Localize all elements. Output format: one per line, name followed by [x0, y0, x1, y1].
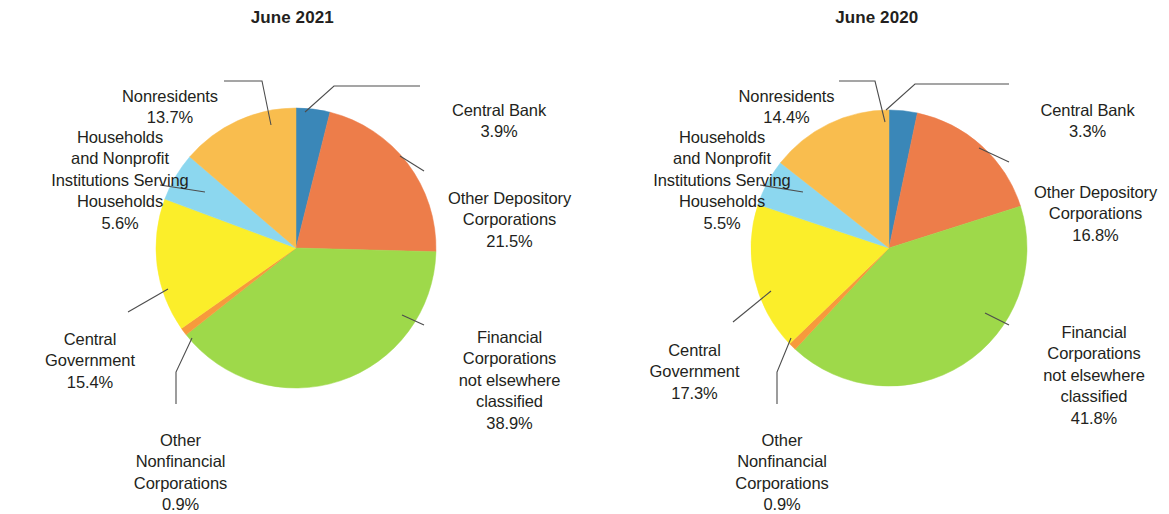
pie-label-value: 15.4%	[20, 372, 160, 394]
pie-label-central-bank: Central Bank 3.3%	[1013, 78, 1163, 164]
pie-label-name: Households and Nonprofit Institutions Se…	[51, 128, 188, 211]
pie-label-name: Nonresidents	[122, 87, 218, 105]
pie-label-value: 41.8%	[1022, 408, 1167, 430]
pie-label-name: Central Bank	[452, 101, 546, 119]
pie-label-name: Central Government	[650, 341, 740, 381]
pie-label-value: 3.9%	[424, 121, 574, 143]
pie-label-value: 21.5%	[437, 231, 582, 253]
pie-label-value: 0.9%	[118, 494, 243, 514]
leader-line-other-nonfinancial	[176, 338, 192, 404]
pie-label-name: Other Depository Corporations	[448, 189, 571, 229]
pie-label-name: Central Government	[45, 330, 135, 370]
pie-label-name: Central Bank	[1040, 101, 1134, 119]
pie-label-financial-corps: Financial Corporations not elsewhere cla…	[437, 305, 582, 456]
pie-label-value: 0.9%	[720, 494, 845, 514]
pie-label-other-depository: Other Depository Corporations 21.5%	[437, 166, 582, 274]
pie-label-name: Other Nonfinancial Corporations	[735, 431, 828, 492]
pie-label-name: Financial Corporations not elsewhere cla…	[459, 328, 560, 411]
pie-label-value: 5.5%	[615, 213, 830, 235]
pie-label-financial-corps: Financial Corporations not elsewhere cla…	[1022, 300, 1167, 451]
pie-label-name: Financial Corporations not elsewhere cla…	[1043, 323, 1144, 406]
pie-label-central-bank: Central Bank 3.9%	[424, 78, 574, 164]
pie-label-central-government: Central Government 15.4%	[20, 307, 160, 415]
pie-label-households: Households and Nonprofit Institutions Se…	[615, 105, 830, 256]
pie-label-households: Households and Nonprofit Institutions Se…	[15, 105, 225, 256]
chart-panel-june-2020: June 2020 Nonresidents 14.4% Households …	[585, 0, 1169, 494]
pie-label-name: Households and Nonprofit Institutions Se…	[653, 128, 790, 211]
leader-line-central-bank	[886, 84, 1009, 110]
pie-label-value: 38.9%	[437, 413, 582, 435]
pie-label-other-nonfinancial: Other Nonfinancial Corporations 0.9%	[118, 408, 243, 514]
pie-label-other-nonfinancial: Other Nonfinancial Corporations 0.9%	[720, 408, 845, 514]
pie-label-name: Other Nonfinancial Corporations	[134, 431, 227, 492]
leader-line-other-nonfinancial	[777, 338, 791, 404]
pie-label-other-depository: Other Depository Corporations 16.8%	[1021, 160, 1169, 268]
chart-panel-june-2021: June 2021 Nonresidents 1	[0, 0, 585, 494]
pie-label-name: Nonresidents	[738, 87, 834, 105]
pie-label-value: 16.8%	[1021, 225, 1169, 247]
pie-label-name: Other Depository Corporations	[1034, 183, 1157, 223]
pie-label-value: 5.6%	[15, 213, 225, 235]
pie-label-value: 3.3%	[1013, 121, 1163, 143]
pie-label-value: 17.3%	[625, 383, 765, 405]
leader-line-central-bank	[305, 86, 420, 112]
